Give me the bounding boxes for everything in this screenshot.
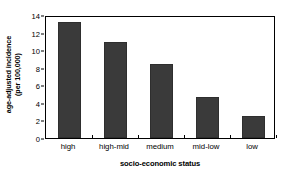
bar-chart-figure: age-adjusted incidence (per 100,000) 024…: [0, 0, 290, 180]
x-axis-tick-mark: [138, 135, 139, 138]
bar-low: [242, 116, 265, 138]
x-axis-title: socio-economic status: [45, 159, 275, 168]
plot-area: [45, 16, 275, 139]
y-axis-tick-mark: [41, 103, 44, 104]
bar-high-mid: [104, 42, 127, 138]
x-axis-tick-mark: [92, 135, 93, 138]
y-axis-tick-mark: [41, 139, 44, 140]
y-axis-tick-label: 2: [36, 117, 40, 126]
y-axis-tick-mark: [41, 51, 44, 52]
bar-mid-low: [196, 97, 219, 138]
x-axis-tick-mark: [230, 135, 231, 138]
y-axis-title-line-2: (per 100,000): [14, 36, 23, 113]
y-axis-tick-mark: [41, 68, 44, 69]
y-axis-tick-label: 10: [32, 47, 40, 56]
x-axis-tick-label-high: high: [61, 142, 76, 151]
y-axis-tick-label: 0: [36, 135, 40, 144]
y-axis-tick-label: 8: [36, 64, 40, 73]
y-axis-tick-label: 4: [36, 99, 40, 108]
y-axis-tick-label: 14: [32, 12, 40, 21]
y-axis-tick-mark: [41, 33, 44, 34]
x-axis-tick-mark: [276, 135, 277, 138]
y-axis-tick-mark: [41, 16, 44, 17]
y-axis-tick-label: 6: [36, 82, 40, 91]
bar-medium: [150, 64, 173, 138]
y-axis-title: age-adjusted incidence (per 100,000): [0, 0, 28, 150]
y-axis-tick-mark: [41, 121, 44, 122]
bar-high: [58, 22, 81, 138]
y-axis-tick-mark: [41, 86, 44, 87]
y-axis-ticks: 02468101214: [26, 16, 44, 139]
y-axis-tick-label: 12: [32, 29, 40, 38]
x-axis-tick-label-mid-low: mid-low: [193, 142, 220, 151]
x-axis-tick-label-medium: medium: [146, 142, 174, 151]
x-axis-tick-labels: highhigh-midmediummid-lowlow: [45, 142, 275, 156]
plot-bars-container: [46, 17, 274, 138]
x-axis-tick-mark: [184, 135, 185, 138]
x-axis-tick-label-high-mid: high-mid: [99, 142, 129, 151]
x-axis-tick-label-low: low: [246, 142, 258, 151]
